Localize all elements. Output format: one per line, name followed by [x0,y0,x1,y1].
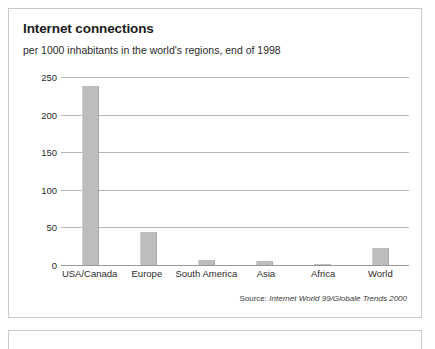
x-tick-label: USA/Canada [61,268,118,279]
x-axis-labels: USA/CanadaEuropeSouth AmericaAsiaAfricaW… [61,268,409,279]
source-note: Source: Internet World 99/Globale Trends… [239,294,407,303]
bar-series [61,77,409,265]
plot-area: 050100150200250 USA/CanadaEuropeSouth Am… [23,77,409,277]
x-tick-label: Europe [118,268,175,279]
bar-cell [177,77,235,265]
x-tick-label: Asia [237,268,294,279]
y-tick-label: 50 [46,222,57,233]
y-tick-label: 250 [41,72,57,83]
bar [198,260,215,265]
bar-cell [235,77,293,265]
bar-cell [293,77,351,265]
y-tick-label: 150 [41,147,57,158]
bar [82,86,99,265]
y-tick-label: 100 [41,184,57,195]
axis-baseline [61,265,409,266]
y-axis-labels: 050100150200250 [23,77,57,265]
source-label: Source: [239,294,267,303]
bar [372,248,389,265]
chart-page: Internet connections per 1000 inhabitant… [0,0,435,349]
bar-cell [119,77,177,265]
x-tick-label: Africa [295,268,352,279]
x-tick-label: South America [175,268,237,279]
y-tick-label: 0 [52,260,57,271]
bar [140,232,157,265]
chart-card: Internet connections per 1000 inhabitant… [8,8,422,318]
chart-subtitle: per 1000 inhabitants in the world's regi… [23,44,281,56]
bar [314,264,331,266]
y-tick-label: 200 [41,109,57,120]
bars-layer [61,77,409,265]
x-tick-label: World [352,268,409,279]
bar-cell [61,77,119,265]
chart-title: Internet connections [23,21,154,36]
bar [256,261,273,266]
bar-cell [351,77,409,265]
bottom-panel [8,330,422,349]
source-citation: Internet World 99/Globale Trends 2000 [269,294,407,303]
